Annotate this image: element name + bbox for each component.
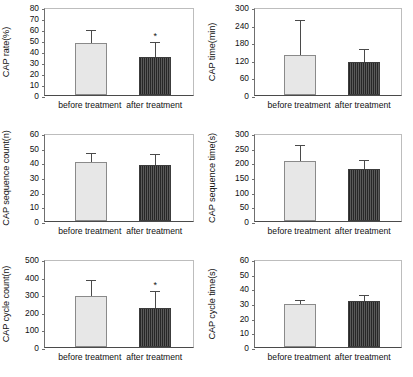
y-tick-label: 80 [30,4,39,12]
y-tick-label: 200 [25,309,39,317]
y-axis-title: CAP sequence time(s) [207,126,221,230]
plot-area [254,8,402,96]
y-tick-mark [42,331,45,332]
y-tick-mark [42,179,45,180]
x-tick-label-after: after treatment [126,100,182,110]
y-tick-mark [252,164,255,165]
y-tick-label: 300 [235,130,249,138]
y-tick-mark [42,296,45,297]
y-tick-mark [252,150,255,151]
y-tick-mark [42,164,45,165]
y-tick-label: 300 [25,291,39,299]
y-tick-mark [252,276,255,277]
plot-area [254,260,402,348]
y-tick-label: 400 [25,273,39,281]
error-bar-cap [359,49,369,50]
y-tick-label: 40 [30,159,39,167]
y-axis-title: CAP time(min) [207,0,221,104]
chart-panel-b: CAP time(min)060120180240300(B)before tr… [206,0,413,125]
chart-panel-e: CAP cycle count(n)0100200300400500(E)bef… [0,251,206,377]
error-bar-line [300,146,301,161]
y-tick-label: 100 [25,326,39,334]
bar-before-treatment [284,304,316,347]
x-tick-label-after: after treatment [335,352,391,362]
x-tick-label-before: before treatment [268,100,331,110]
y-tick-label: 30 [30,174,39,182]
bar-before-treatment [75,43,107,95]
y-tick-label: 500 [25,256,39,264]
error-bar-cap [359,160,369,161]
y-tick-label: 20 [240,314,249,322]
y-tick-label: 0 [34,92,39,100]
bar-before-treatment [284,55,316,95]
y-tick-label: 120 [235,57,249,65]
error-bar-cap [150,154,160,155]
y-axis-title-wrap: CAP sequence time(s) [207,126,221,230]
plot-area: * [44,260,194,348]
y-tick-label: 20 [30,188,39,196]
y-tick-label: 40 [240,285,249,293]
y-tick-mark [42,150,45,151]
error-bar-line [364,50,365,62]
y-tick-label: 50 [30,37,39,45]
y-tick-mark [42,279,45,280]
y-tick-label: 300 [235,4,249,12]
y-axis-title-wrap: CAP time(min) [207,0,221,104]
chart-panel-c: CAP sequence count(n)0102030405060(C)bef… [0,125,206,251]
y-axis-title-wrap: CAP cycle count(n) [1,252,15,356]
chart-panel-a: CAP rate(%)01020304050607080(A)before tr… [0,0,206,125]
y-tick-label: 70 [30,15,39,23]
y-tick-mark [42,9,45,10]
y-tick-label: 60 [30,26,39,34]
error-bar-cap [295,20,305,21]
y-tick-label: 0 [34,218,39,226]
error-bar-line [364,161,365,170]
y-tick-mark [42,64,45,65]
y-tick-mark [42,314,45,315]
y-tick-mark [252,27,255,28]
y-tick-label: 200 [235,159,249,167]
error-bar-line [91,154,92,162]
y-tick-mark [42,42,45,43]
error-bar-cap [359,295,369,296]
error-bar-line [91,281,92,296]
y-tick-label: 50 [30,144,39,152]
x-tick-label-before: before treatment [268,226,331,236]
bar-after-treatment [348,62,380,95]
error-bar-cap [295,300,305,301]
bar-before-treatment [75,162,107,221]
y-tick-label: 20 [30,70,39,78]
plot-area: * [44,8,194,96]
error-bar-cap [86,30,96,31]
y-tick-mark [42,208,45,209]
y-tick-mark [42,97,45,98]
significance-asterisk: * [153,281,157,290]
y-tick-label: 30 [30,59,39,67]
x-tick-label-after: after treatment [335,100,391,110]
y-tick-label: 100 [235,188,249,196]
error-bar-line [364,296,365,300]
y-tick-label: 0 [244,218,249,226]
y-tick-mark [252,194,255,195]
chart-panel-f: CAP cycle time(s)0102030405060(F)before … [206,251,413,377]
y-tick-mark [42,261,45,262]
y-tick-label: 0 [244,92,249,100]
error-bar-line [155,155,156,165]
error-bar-line [91,31,92,43]
y-tick-mark [42,135,45,136]
y-tick-label: 60 [240,74,249,82]
y-tick-mark [252,44,255,45]
y-axis-title: CAP cycle count(n) [1,252,15,356]
error-bar-line [155,43,156,56]
bar-before-treatment [284,161,316,221]
x-tick-label-after: after treatment [335,226,391,236]
x-tick-label-after: after treatment [126,352,182,362]
error-bar-cap [86,280,96,281]
y-tick-mark [42,20,45,21]
y-tick-mark [252,208,255,209]
bar-after-treatment [139,57,171,96]
x-tick-label-before: before treatment [268,352,331,362]
y-tick-label: 10 [240,329,249,337]
bar-after-treatment [348,301,380,347]
y-tick-mark [252,9,255,10]
